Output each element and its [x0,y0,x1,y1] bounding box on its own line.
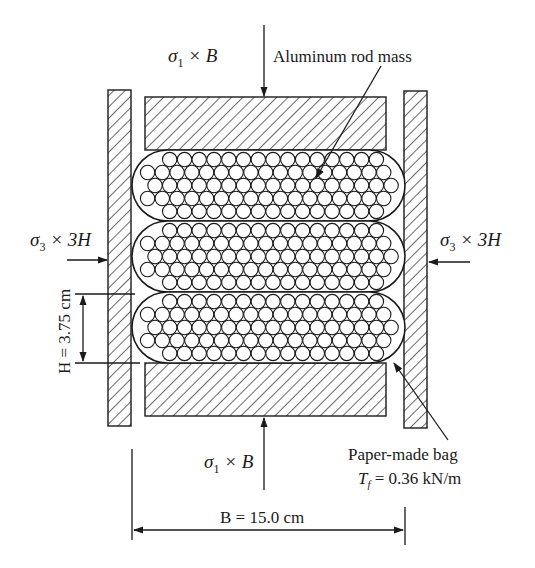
aluminum-rod [222,320,236,334]
aluminum-rod [266,249,280,263]
aluminum-rod [214,191,228,205]
aluminum-rod [266,275,280,289]
aluminum-rod [192,346,206,360]
aluminum-rod [148,178,162,192]
aluminum-rod [199,165,213,179]
aluminum-rod [163,152,177,166]
aluminum-rod [273,333,287,347]
right-wall [404,91,427,428]
aluminum-rod [347,191,361,205]
aluminum-rod [207,249,221,263]
aluminum-rod [384,320,398,334]
aluminum-rod [354,320,368,334]
aluminum-rod [214,262,228,276]
aluminum-rod [192,178,206,192]
aluminum-rod [251,346,265,360]
aluminum-rod [325,320,339,334]
aluminum-rod [340,320,354,334]
aluminum-rod [185,191,199,205]
aluminum-rod [362,236,376,250]
aluminum-rod [236,204,250,218]
aluminum-rod [354,204,368,218]
aluminum-rod [236,275,250,289]
aluminum-rod [273,307,287,321]
aluminum-rod [251,178,265,192]
aluminum-rod [377,262,391,276]
aluminum-rod [369,275,383,289]
aluminum-rod [295,249,309,263]
aluminum-rod [170,307,184,321]
aluminum-rod [222,275,236,289]
aluminum-rod [325,223,339,237]
aluminum-rod [163,178,177,192]
aluminum-rod [354,178,368,192]
aluminum-rod [288,307,302,321]
aluminum-rod [155,191,169,205]
aluminum-rod [377,333,391,347]
aluminum-rod [199,307,213,321]
paper-bag-3 [132,292,405,363]
aluminum-rod [369,346,383,360]
aluminum-rod [140,191,154,205]
aluminum-rod [140,307,154,321]
aluminum-rod [155,236,169,250]
aluminum-rod [332,333,346,347]
aluminum-rod [163,294,177,308]
width-dimension-label: B = 15.0 cm [220,508,304,527]
aluminum-rod [236,178,250,192]
aluminum-rod [347,165,361,179]
aluminum-rod [295,320,309,334]
aluminum-rod [244,262,258,276]
aluminum-rod [354,294,368,308]
aluminum-rod [347,262,361,276]
aluminum-rod [251,204,265,218]
aluminum-rod [362,262,376,276]
aluminum-rod [155,307,169,321]
bottom-platen [145,363,386,416]
aluminum-rod [310,223,324,237]
aluminum-rod [310,275,324,289]
aluminum-rod [177,178,191,192]
aluminum-rod [222,204,236,218]
aluminum-rod [273,262,287,276]
aluminum-rod [222,223,236,237]
aluminum-rod [310,204,324,218]
aluminum-rod [229,191,243,205]
aluminum-rod [207,178,221,192]
aluminum-rod [251,249,265,263]
aluminum-rod [369,178,383,192]
aluminum-rod [177,346,191,360]
aluminum-rod [340,223,354,237]
aluminum-rod [369,294,383,308]
paper-bag-1 [132,150,405,221]
aluminum-rod [266,152,280,166]
aluminum-rod [288,165,302,179]
aluminum-rod [362,307,376,321]
aluminum-rod [340,152,354,166]
aluminum-rod [362,191,376,205]
aluminum-rod [244,165,258,179]
aluminum-rod [236,249,250,263]
aluminum-rod [199,333,213,347]
aluminum-rod [192,249,206,263]
aluminum-rod [273,165,287,179]
aluminum-rod [325,204,339,218]
aluminum-rod [266,178,280,192]
aluminum-rod [303,262,317,276]
aluminum-rod [163,223,177,237]
aluminum-rod [295,294,309,308]
aluminum-rod [170,236,184,250]
aluminum-rod [340,204,354,218]
aluminum-rod [163,204,177,218]
aluminum-rod [354,223,368,237]
aluminum-rod [332,262,346,276]
aluminum-rod [354,152,368,166]
aluminum-rod [303,236,317,250]
aluminum-rod [332,236,346,250]
aluminum-rod [236,223,250,237]
aluminum-rod [192,204,206,218]
aluminum-rod [244,307,258,321]
aluminum-rod [369,152,383,166]
aluminum-rod [266,320,280,334]
aluminum-rod [185,307,199,321]
